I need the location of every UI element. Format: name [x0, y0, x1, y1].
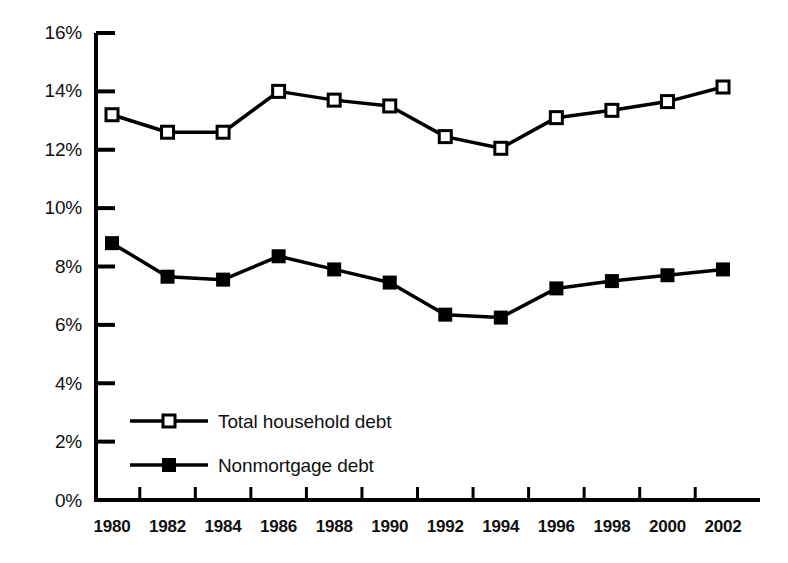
data-point-1-2	[218, 274, 229, 285]
data-point-1-7	[495, 312, 506, 323]
xtick-label-1980: 1980	[82, 517, 142, 537]
data-point-0-2	[217, 126, 229, 138]
data-point-1-10	[662, 270, 673, 281]
data-point-1-0	[107, 238, 118, 249]
legend-label-nonmortgage-debt: Nonmortgage debt	[218, 455, 374, 477]
ytick-label-12: 12%	[10, 139, 82, 161]
xtick-label-1982: 1982	[138, 517, 198, 537]
data-point-0-10	[661, 96, 673, 108]
xtick-label-1998: 1998	[582, 517, 642, 537]
ytick-label-6: 6%	[10, 314, 82, 336]
data-point-0-0	[106, 109, 118, 121]
data-point-0-11	[717, 81, 729, 93]
xtick-label-1984: 1984	[193, 517, 253, 537]
legend-marks	[130, 415, 208, 471]
ytick-label-8: 8%	[10, 256, 82, 278]
data-point-0-9	[606, 104, 618, 116]
xtick-label-1986: 1986	[249, 517, 309, 537]
data-point-1-1	[162, 271, 173, 282]
data-point-1-9	[606, 276, 617, 287]
data-point-0-3	[273, 85, 285, 97]
data-point-1-6	[440, 309, 451, 320]
data-point-0-1	[162, 126, 174, 138]
xtick-label-1992: 1992	[415, 517, 475, 537]
xtick-label-1990: 1990	[360, 517, 420, 537]
data-point-0-8	[550, 112, 562, 124]
series-line-1	[112, 243, 723, 317]
line-chart-plot	[0, 0, 788, 563]
data-point-0-7	[495, 142, 507, 154]
data-point-1-5	[384, 277, 395, 288]
xtick-label-1994: 1994	[471, 517, 531, 537]
series-line-0	[112, 87, 723, 148]
ytick-label-10: 10%	[10, 197, 82, 219]
data-point-1-3	[273, 251, 284, 262]
ytick-label-2: 2%	[10, 431, 82, 453]
data-point-0-6	[439, 131, 451, 143]
legend-label-total-household-debt: Total household debt	[218, 411, 391, 433]
ytick-label-0: 0%	[10, 490, 82, 512]
chart-container: 16% 14% 12% 10% 8% 6% 4% 2% 0% 198019821…	[0, 0, 788, 563]
legend-swatch-marker-1	[164, 460, 175, 471]
xtick-label-1996: 1996	[526, 517, 586, 537]
ytick-label-14: 14%	[10, 80, 82, 102]
data-point-1-4	[329, 264, 340, 275]
y-tick-marks	[96, 33, 115, 500]
data-point-0-4	[328, 94, 340, 106]
data-point-1-11	[718, 264, 729, 275]
xtick-label-1988: 1988	[304, 517, 364, 537]
ytick-label-16: 16%	[10, 22, 82, 44]
data-point-0-5	[384, 100, 396, 112]
series-layer	[106, 81, 729, 323]
xtick-label-2002: 2002	[693, 517, 753, 537]
ytick-label-4: 4%	[10, 373, 82, 395]
data-point-1-8	[551, 283, 562, 294]
legend-swatch-marker-0	[163, 415, 175, 427]
xtick-label-2000: 2000	[637, 517, 697, 537]
